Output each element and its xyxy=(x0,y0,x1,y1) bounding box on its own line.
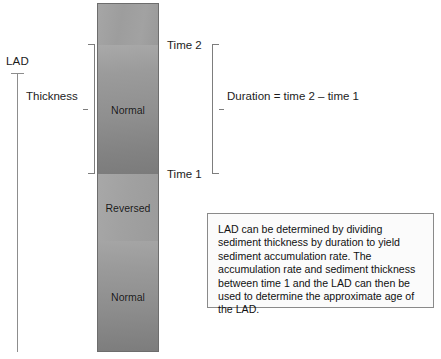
column-segment-top xyxy=(98,4,158,45)
time-1-label: Time 1 xyxy=(167,168,202,180)
column-segment-normal-lower: Normal xyxy=(98,241,158,352)
duration-bracket xyxy=(212,44,219,174)
thickness-bracket-pointer xyxy=(83,109,88,110)
duration-label: Duration = time 2 – time 1 xyxy=(227,90,359,102)
thickness-bracket xyxy=(88,44,95,174)
column-segment-reversed: Reversed xyxy=(98,174,158,241)
time-2-label: Time 2 xyxy=(167,39,202,51)
sediment-column: Normal Reversed Normal xyxy=(97,3,159,352)
explanation-box: LAD can be determined by dividing sedime… xyxy=(207,213,434,308)
column-segment-reversed-label: Reversed xyxy=(106,202,151,214)
figure-canvas: LAD Normal Reversed Normal Thickness Tim… xyxy=(0,0,441,359)
lad-axis-line xyxy=(17,73,18,352)
column-segment-normal-upper-label: Normal xyxy=(111,104,145,116)
column-segment-normal-lower-label: Normal xyxy=(111,291,145,303)
column-segment-normal-upper: Normal xyxy=(98,45,158,174)
duration-bracket-pointer xyxy=(219,109,224,110)
explanation-text: LAD can be determined by dividing sedime… xyxy=(218,223,423,317)
lad-axis-label: LAD xyxy=(6,55,29,67)
thickness-label: Thickness xyxy=(26,90,78,102)
